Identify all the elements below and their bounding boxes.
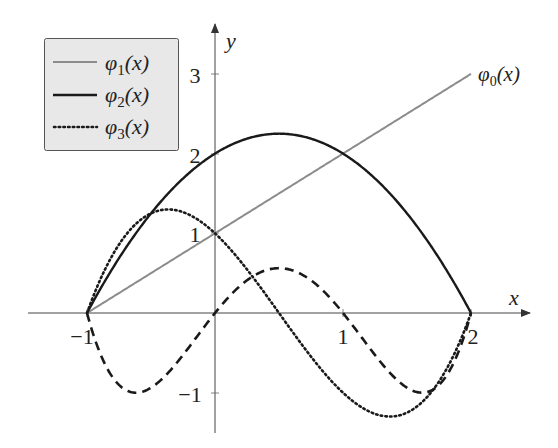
legend-label-phi1: φ1(x) (105, 50, 149, 78)
legend-label-phi3: φ3(x) (105, 114, 149, 142)
x-axis-label: x (508, 285, 519, 310)
y-axis-label: y (224, 28, 236, 53)
y-tick-3: 3 (190, 63, 201, 88)
legend-label-phi2: φ2(x) (105, 82, 149, 110)
chart-figure: 3 2 1 −1 −1 1 2 x y φ0(x) φ1(x) φ2(x) φ3… (0, 0, 558, 448)
legend: φ1(x) φ2(x) φ3(x) (45, 39, 179, 151)
dashed-curve (87, 268, 471, 393)
y-tick-neg1: −1 (178, 382, 201, 407)
phi2-curve (87, 134, 471, 313)
phi0-annotation: φ0(x) (478, 62, 520, 89)
x-tick-1: 1 (338, 324, 349, 349)
x-tick-2: 2 (468, 324, 479, 349)
